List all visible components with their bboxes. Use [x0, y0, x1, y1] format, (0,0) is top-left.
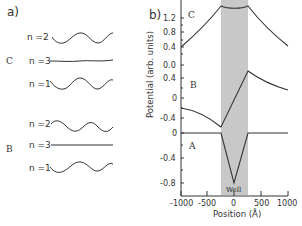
ytick-b-0.4: 0.4 [163, 74, 176, 83]
wave-c-n2 [52, 33, 113, 43]
ytick-c-0.4: 0.4 [163, 43, 176, 52]
x-axis-title: Position (Å) [213, 208, 261, 219]
ytick-c-1.2: 1.2 [163, 14, 176, 23]
ytick-c-0.0: 0.0 [163, 61, 176, 70]
xtick--1000: -1000 [170, 199, 193, 208]
curve-label-c: C [188, 10, 195, 20]
y-axis-title: Potential (arb. units) [145, 31, 155, 118]
x-ticks [181, 191, 288, 196]
curve-label-a: A [188, 141, 196, 151]
wave-c-n3 [50, 60, 113, 61]
figure-canvas: Well 1.2 0.8 0.4 0.0 0.4 0 -0.4 0 -0.4 -… [0, 0, 302, 226]
xtick-1000: 1000 [277, 199, 297, 208]
xtick-0: 0 [231, 199, 236, 208]
ytick-c-0.8: 0.8 [163, 28, 176, 37]
ytick-a--0.4: -0.4 [160, 154, 176, 163]
wavefunctions [50, 33, 113, 173]
ytick-a-0: 0 [172, 129, 177, 138]
xtick-500: 500 [254, 199, 269, 208]
ytick-b-0: 0 [172, 94, 177, 103]
wave-c-n1 [50, 78, 113, 89]
wave-b-n1 [50, 162, 113, 173]
wave-b-n2 [51, 121, 113, 132]
xtick--500: -500 [198, 199, 216, 208]
ytick-b--0.4: -0.4 [160, 114, 176, 123]
curve-label-b: B [190, 80, 197, 90]
ytick-a--0.8: -0.8 [160, 179, 176, 188]
well-region [221, 0, 248, 195]
